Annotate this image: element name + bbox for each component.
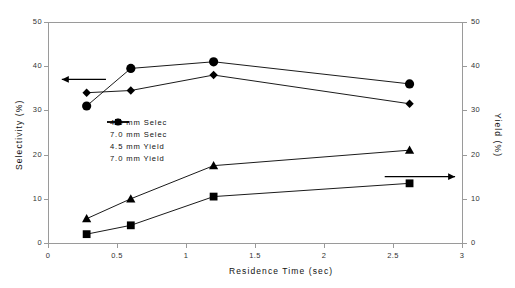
series-line bbox=[87, 183, 410, 234]
series-data-point bbox=[126, 194, 135, 202]
legend-item: 7.0 mm Yield bbox=[107, 152, 167, 164]
legend-item: 7.0 mm Selec bbox=[107, 128, 167, 140]
legend-item: 4.5 mm Yield bbox=[107, 140, 167, 152]
series-data-point bbox=[209, 71, 217, 79]
chart-container: 01020304050 01020304050 00.511.522.53 Se… bbox=[0, 0, 515, 288]
series-line bbox=[87, 75, 410, 104]
right-axis-arrow-head bbox=[448, 173, 455, 180]
series-data-point bbox=[127, 86, 135, 94]
series-data-point bbox=[209, 57, 218, 66]
series-data-point bbox=[210, 193, 218, 201]
series-data-point bbox=[405, 79, 414, 88]
left-axis-arrow-head bbox=[62, 76, 69, 83]
legend-item-label: 4.5 mm Yield bbox=[110, 142, 165, 151]
plot-series-layer bbox=[0, 0, 515, 288]
series-data-point bbox=[406, 179, 414, 187]
series-data-point bbox=[405, 100, 413, 108]
series-data-point bbox=[126, 64, 135, 73]
series-data-point bbox=[83, 230, 91, 238]
series-data-point bbox=[82, 214, 91, 222]
legend: 4.5 mm Selec7.0 mm Selec4.5 mm Yield7.0 … bbox=[107, 116, 167, 164]
legend-item-label: 7.0 mm Yield bbox=[110, 154, 165, 163]
legend-item-label: 7.0 mm Selec bbox=[110, 130, 167, 139]
legend-marker-square-icon bbox=[107, 116, 129, 128]
series-data-point bbox=[127, 221, 135, 229]
series-data-point bbox=[405, 146, 414, 154]
series-data-point bbox=[82, 101, 91, 110]
series-data-point bbox=[82, 89, 90, 97]
